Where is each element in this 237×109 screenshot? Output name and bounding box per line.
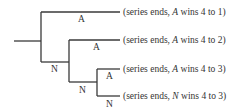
branch-label-n-2: N	[79, 85, 86, 95]
branch-label-a-2: A	[93, 42, 100, 52]
branch-label-n-3: N	[106, 99, 113, 109]
outcome-4: (series ends, N wins 4 to 3)	[123, 91, 226, 101]
branch-label-a-3: A	[106, 71, 113, 81]
branch-label-n-1: N	[51, 64, 58, 74]
outcome-3: (series ends, A wins 4 to 3)	[123, 64, 226, 74]
outcome-1: (series ends, A wins 4 to 1)	[123, 7, 226, 17]
branch-label-a-1: A	[78, 14, 85, 24]
outcome-2: (series ends, A wins 4 to 2)	[123, 35, 226, 45]
